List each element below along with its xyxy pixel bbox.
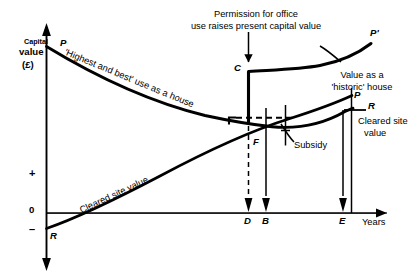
y-axis-zero-label: 0: [29, 205, 34, 216]
historic-house-leader: [320, 46, 341, 62]
point-P-prime: P': [370, 28, 379, 39]
x-tick-label-B: B: [262, 216, 269, 227]
point-C: C: [234, 63, 241, 74]
historic-house-note-line2: 'historic' house: [318, 82, 406, 92]
tick-line-D: [245, 126, 253, 212]
subsidy-note: Subsidy: [294, 140, 327, 150]
y-axis-plus-sign: +: [29, 167, 35, 179]
diagram-canvas: Capital value (£) + 0 – Permission for o…: [0, 0, 418, 280]
x-tick-label-E: E: [339, 216, 345, 227]
point-F: F: [253, 137, 259, 148]
permission-note-line2: use raises present capital value: [178, 21, 334, 31]
point-P-right: P: [354, 90, 360, 101]
cleared-site-right-note-line1: Cleared site: [358, 116, 418, 126]
point-R-bottom-left: R: [50, 231, 57, 242]
y-axis-label-line2: value: [19, 47, 44, 58]
historic-house-note-line1: Value as a: [318, 70, 406, 80]
y-axis-label-line1: Capital: [24, 38, 48, 46]
cleared-site-right-note-line2: value: [364, 128, 418, 138]
x-tick-label-D: D: [244, 216, 251, 227]
point-P-top-left: P: [60, 38, 66, 49]
permission-note-line1: Permission for office: [186, 9, 326, 19]
point-R-right: R: [368, 101, 375, 112]
y-axis-label-line3: (£): [22, 60, 34, 71]
x-axis-label: Years: [362, 217, 385, 227]
tick-line-B: [262, 108, 270, 212]
right-value-marker: [344, 88, 366, 213]
y-axis-minus-sign: –: [29, 223, 35, 235]
tick-line-E: [339, 110, 347, 212]
